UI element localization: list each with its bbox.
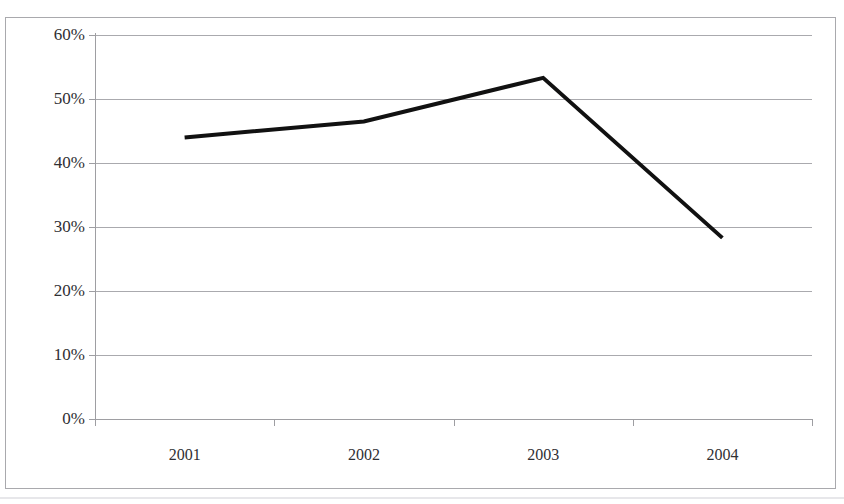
y-tick-mark [89,291,96,292]
gridline-30% [95,227,812,228]
chart-page: 0%10%20%30%40%50%60% 2001200220032004 [0,0,844,504]
y-axis-label-20%: 20% [7,282,85,299]
gridline-20% [95,291,812,292]
y-tick-mark [89,163,96,164]
y-tick-mark [89,99,96,100]
x-tick-mark [274,419,275,426]
y-tick-mark [89,355,96,356]
y-tick-mark [89,227,96,228]
y-axis-label-0%: 0% [7,410,85,427]
gridline-10% [95,355,812,356]
x-axis-label-2001: 2001 [125,446,245,464]
x-axis-label-2002: 2002 [304,446,424,464]
page-bottom-edge [0,497,844,499]
y-tick-mark [89,35,96,36]
y-axis-tick-labels: 0%10%20%30%40%50%60% [0,0,85,504]
y-axis-label-50%: 50% [7,90,85,107]
x-tick-mark [812,419,813,426]
gridline-60% [95,35,812,36]
y-axis-label-30%: 30% [7,218,85,235]
gridline-50% [95,99,812,100]
y-axis-label-10%: 10% [7,346,85,363]
x-tick-mark [633,419,634,426]
x-axis-label-2003: 2003 [483,446,603,464]
y-axis-label-40%: 40% [7,154,85,171]
x-axis-label-2004: 2004 [662,446,782,464]
y-axis-label-60%: 60% [7,26,85,43]
x-tick-mark [95,419,96,426]
cropped-title-remnant [120,0,760,11]
x-axis-tick-labels: 2001200220032004 [0,446,844,470]
gridline-40% [95,163,812,164]
plot-area [95,35,812,419]
x-tick-mark [454,419,455,426]
